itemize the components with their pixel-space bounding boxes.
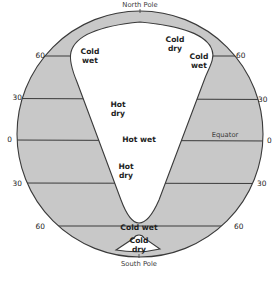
zone-label-line2: dry <box>119 171 133 180</box>
lat-label-right-30s: 30 <box>257 179 267 188</box>
lat-label-left-30n: 30 <box>13 93 23 102</box>
zone-label-line1: Cold <box>166 35 185 44</box>
zone-label-line1: Cold <box>81 47 100 56</box>
zone-label-line1: Hot <box>110 100 126 109</box>
lat-label-right-0: 0 <box>267 136 272 145</box>
zone-north-cold-wet-left: Cold wet <box>81 47 100 65</box>
zone-south-cold-wet: Cold wet <box>120 223 158 232</box>
north-pole-label: North Pole <box>122 1 157 9</box>
zone-south-cold-dry: Cold dry <box>130 236 149 254</box>
zone-label-line2: dry <box>132 245 146 254</box>
lat-label-left-30s: 30 <box>13 179 23 188</box>
zone-north-cold-dry: Cold dry <box>166 35 185 53</box>
zone-label-line1: Cold <box>190 52 209 61</box>
climate-zone-diagram: North Pole South Pole 60 30 0 30 60 60 3… <box>0 0 278 289</box>
lat-label-left-60s: 60 <box>36 222 46 231</box>
zone-hot-dry-lower: Hot dry <box>118 162 134 180</box>
zone-label-line2: dry <box>111 109 125 118</box>
zone-label-line2: dry <box>168 44 182 53</box>
zone-label-line2: wet <box>82 56 98 65</box>
zone-hot-dry-upper: Hot dry <box>110 100 126 118</box>
zone-label-line1: Cold <box>130 236 149 245</box>
lat-label-right-30n: 30 <box>258 95 268 104</box>
lat-label-right-60n: 60 <box>236 51 246 60</box>
zone-north-cold-wet-right: Cold wet <box>190 52 209 70</box>
lat-label-left-60n: 60 <box>36 51 46 60</box>
south-pole-label: South Pole <box>121 260 157 268</box>
lat-label-right-60s: 60 <box>234 222 244 231</box>
lat-label-left-0: 0 <box>7 135 12 144</box>
zone-label-line1: Hot <box>118 162 134 171</box>
zone-label-line2: wet <box>191 61 207 70</box>
zone-hot-wet: Hot wet <box>122 135 156 144</box>
equator-label: Equator <box>212 131 239 139</box>
